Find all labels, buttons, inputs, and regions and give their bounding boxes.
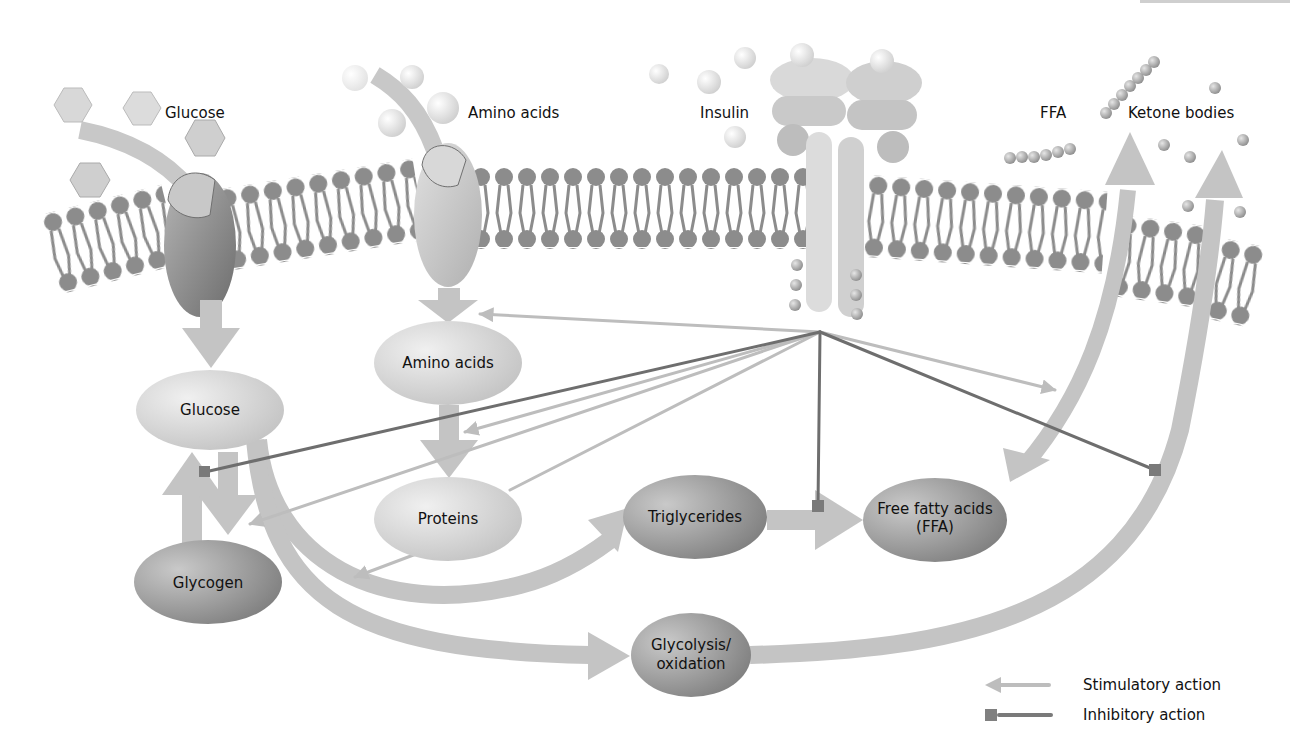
label-ffa-extracellular: FFA (1040, 104, 1067, 122)
svg-text:Glycolysis/: Glycolysis/ (651, 636, 732, 654)
arrowhead-to-glycolysis (588, 632, 630, 680)
stim-amino-to-protein (465, 332, 820, 432)
svg-text:Proteins: Proteins (418, 510, 479, 528)
inhib-glycogenolysis-head (199, 466, 210, 477)
legend: Stimulatory action Inhibitory action (985, 670, 1285, 730)
stim-amino-uptake (480, 314, 820, 332)
label-insulin: Insulin (700, 104, 749, 122)
node-triglycerides: Triglycerides (623, 475, 767, 559)
inhib-ketogenesis (820, 332, 1155, 470)
legend-inhibitory-label: Inhibitory action (1083, 706, 1205, 724)
inhib-lipolysis (818, 332, 820, 505)
legend-stimulatory: Stimulatory action (985, 670, 1285, 700)
node-glycogen: Glycogen (134, 540, 282, 624)
label-glucose-extracellular: Glucose (165, 104, 225, 122)
legend-stimulatory-label: Stimulatory action (1083, 676, 1221, 694)
label-ketone-bodies: Ketone bodies (1128, 104, 1234, 122)
inhib-ketogenesis-head (1149, 464, 1161, 476)
label-amino-acids-extracellular: Amino acids (468, 104, 560, 122)
stimulatory-arrow-icon (985, 677, 1055, 693)
arrowhead-ffa-out (1105, 132, 1155, 185)
svg-text:Amino acids: Amino acids (402, 354, 494, 372)
svg-text:(FFA): (FFA) (916, 518, 954, 536)
svg-text:Triglycerides: Triglycerides (647, 508, 742, 526)
node-glucose: Glucose (136, 370, 284, 450)
node-proteins: Proteins (374, 477, 522, 561)
svg-text:Glucose: Glucose (180, 401, 240, 419)
svg-text:Free fatty acids: Free fatty acids (877, 500, 993, 518)
node-free-fatty-acids: Free fatty acids (FFA) (863, 478, 1007, 562)
inhib-lipolysis-head (812, 500, 824, 512)
svg-text:Glycogen: Glycogen (173, 574, 243, 592)
arrowhead-to-ketone-bodies (1195, 150, 1243, 198)
stim-proteins (510, 332, 820, 490)
inhibitory-bar-icon (985, 707, 1055, 723)
node-amino-acids: Amino acids (374, 321, 522, 405)
insulin-metabolism-diagram: Glucose Amino acids Insulin (0, 0, 1290, 736)
node-glycolysis-oxidation: Glycolysis/ oxidation (631, 613, 751, 697)
legend-inhibitory: Inhibitory action (985, 700, 1285, 730)
svg-text:oxidation: oxidation (656, 655, 725, 673)
